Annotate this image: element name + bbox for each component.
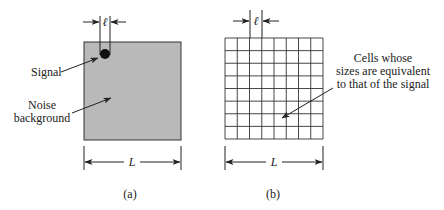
noise-label-line1: Noise — [28, 98, 56, 112]
ell-symbol-a: ℓ — [103, 15, 108, 29]
figure: ℓ Signal Noise background L (a) ℓ Cells … — [0, 0, 444, 210]
L-symbol-a: L — [128, 155, 136, 169]
L-symbol-b: L — [270, 155, 278, 169]
signal-dot — [100, 49, 110, 59]
cells-label-line3: to that of the signal — [337, 77, 430, 91]
cells-label-line1: Cells whose — [354, 51, 412, 65]
cell-grid — [225, 38, 323, 139]
signal-label: Signal — [31, 65, 62, 79]
panel-b: ℓ Cells whose sizes are equivalent to th… — [225, 10, 431, 201]
noise-label-line2: background — [14, 111, 71, 125]
cells-label-line2: sizes are equivalent — [336, 64, 431, 78]
caption-a: (a) — [123, 187, 136, 201]
noise-background-box — [84, 42, 181, 140]
ell-symbol-b: ℓ — [254, 14, 259, 28]
panel-a: ℓ Signal Noise background L (a) — [14, 15, 181, 201]
caption-b: (b) — [266, 187, 280, 201]
